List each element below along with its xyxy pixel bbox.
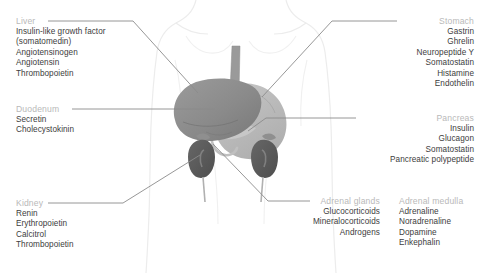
label-group-adrenal-glands: Adrenal glands Glucocorticoids Mineraloc… (313, 196, 380, 238)
hormone-item: Somatostatin (390, 145, 474, 155)
hormone-item: Dopamine (399, 228, 463, 238)
hormone-item: Thrombopoietin (16, 240, 74, 250)
group-header-kidney: Kidney (16, 198, 74, 209)
hormone-item: Pancreatic polypeptide (390, 155, 474, 165)
hormone-item: Angiotensinogen (16, 48, 106, 58)
leader-line-kidney (48, 155, 200, 203)
label-group-adrenal-medulla: Adrenal medulla Adrenaline Noradrenaline… (399, 196, 463, 249)
hormone-item: Angiotensin (16, 58, 106, 68)
hormone-item: Secretin (16, 115, 74, 125)
group-header-pancreas: Pancreas (390, 113, 474, 124)
leader-line-adrenal (213, 144, 310, 201)
hormone-item: Endothelin (417, 79, 474, 89)
hormone-item: Adrenaline (399, 207, 463, 217)
group-header-adrenal-glands: Adrenal glands (313, 196, 380, 207)
label-group-liver: Liver Insulin-like growth factor (somato… (16, 16, 106, 79)
hormone-item: Androgens (313, 228, 380, 238)
figure-canvas: Liver Insulin-like growth factor (somato… (0, 0, 482, 273)
group-header-duodenum: Duodenum (16, 104, 74, 115)
leader-line-stomach (262, 21, 397, 97)
hormone-item: Mineralocorticoids (313, 217, 380, 227)
hormone-item: Cholecystokinin (16, 125, 74, 135)
hormone-item: Glucagon (390, 134, 474, 144)
hormone-item: Insulin-like growth factor (16, 27, 106, 37)
hormone-item: Glucocorticoids (313, 207, 380, 217)
hormone-item: Thrombopoietin (16, 69, 106, 79)
label-group-pancreas: Pancreas Insulin Glucagon Somatostatin P… (390, 113, 474, 166)
hormone-item: Histamine (417, 69, 474, 79)
label-group-duodenum: Duodenum Secretin Cholecystokinin (16, 104, 74, 136)
hormone-item: Noradrenaline (399, 217, 463, 227)
label-group-kidney: Kidney Renin Erythropoietin Calcitrol Th… (16, 198, 74, 251)
hormone-item: Somatostatin (417, 58, 474, 68)
hormone-item: Gastrin (417, 27, 474, 37)
hormone-item: (somatomedin) (16, 37, 106, 47)
hormone-item: Ghrelin (417, 37, 474, 47)
label-group-stomach: Stomach Gastrin Ghrelin Neuropeptide Y S… (417, 16, 474, 89)
leader-line-pancreas (248, 118, 356, 131)
hormone-item: Enkephalin (399, 238, 463, 248)
hormone-item: Calcitrol (16, 230, 74, 240)
hormone-item: Erythropoietin (16, 219, 74, 229)
hormone-item: Neuropeptide Y (417, 48, 474, 58)
hormone-item: Renin (16, 209, 74, 219)
group-header-liver: Liver (16, 16, 106, 27)
group-header-adrenal-medulla: Adrenal medulla (399, 196, 463, 207)
group-header-stomach: Stomach (417, 16, 474, 27)
hormone-item: Insulin (390, 124, 474, 134)
